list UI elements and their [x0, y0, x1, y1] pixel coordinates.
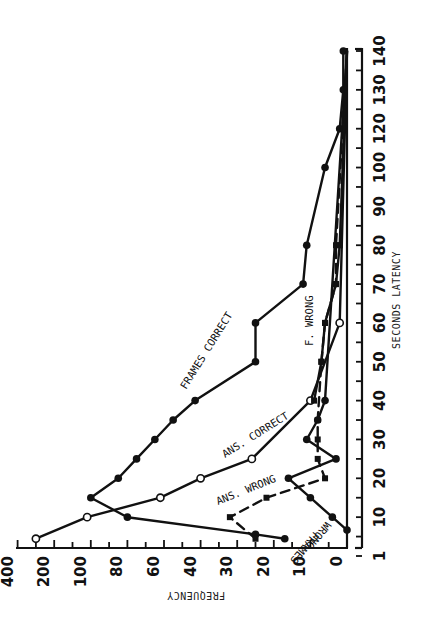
- frequency-tick-label: 80: [108, 556, 126, 577]
- seconds-tick-label: 90: [371, 196, 389, 217]
- frequency-tick-label: 0: [328, 556, 346, 566]
- data-point: [285, 475, 293, 483]
- data-point: [336, 319, 343, 326]
- frequency-tick-label: 60: [145, 556, 163, 577]
- data-point: [263, 495, 269, 501]
- seconds-tick-label: 60: [371, 312, 389, 333]
- data-point: [318, 359, 324, 365]
- data-point: [332, 455, 340, 463]
- data-point: [197, 475, 204, 482]
- data-point: [191, 397, 199, 405]
- seconds-tick-label: 10: [371, 507, 389, 528]
- data-point: [114, 475, 122, 483]
- data-point: [281, 535, 289, 543]
- data-point: [252, 358, 260, 366]
- data-point: [311, 398, 317, 404]
- frequency-ticks: [18, 540, 347, 548]
- data-point: [124, 513, 132, 521]
- data-point: [322, 320, 328, 326]
- seconds-tick-label: 130: [371, 74, 389, 105]
- frequency-tick-label: 40: [182, 556, 200, 577]
- seconds-axis-label: SECONDS LATENCY: [391, 251, 402, 349]
- data-point: [315, 436, 321, 442]
- seconds-tick-label: 120: [371, 113, 389, 144]
- data-point: [299, 280, 307, 288]
- data-point: [329, 513, 337, 521]
- data-point: [157, 494, 164, 501]
- data-point: [248, 455, 255, 462]
- label-ans-wrong: ANS. WRONG: [214, 472, 277, 507]
- data-point: [333, 281, 339, 287]
- data-point: [343, 526, 351, 534]
- data-point: [315, 456, 321, 462]
- data-point: [227, 514, 233, 520]
- seconds-tick-label: 50: [371, 351, 389, 372]
- latency-frequency-chart: 0102030406080100200400 11020304050607080…: [0, 0, 428, 628]
- ans-correct-line: [36, 51, 347, 539]
- seconds-tick-label: 1: [371, 551, 389, 561]
- data-point: [321, 164, 329, 172]
- seconds-tick-label: 70: [371, 274, 389, 295]
- data-point: [337, 242, 343, 248]
- seconds-tick-label: 140: [371, 35, 389, 66]
- frequency-tick-label: 30: [218, 556, 236, 577]
- frequency-tick-label: 20: [255, 556, 273, 577]
- data-point: [151, 436, 159, 444]
- frames-correct-line: [91, 51, 343, 539]
- data-point: [322, 475, 328, 481]
- frequency-tick-label: 400: [0, 556, 17, 587]
- frequency-tick-label: 100: [72, 556, 90, 587]
- series-frames-correct: [87, 47, 347, 542]
- data-point: [303, 241, 311, 249]
- seconds-tick-labels: 1102030405060708090100120130140: [371, 35, 389, 561]
- data-point: [314, 416, 322, 424]
- label-ans-correct: ANS. CORRECT: [220, 409, 291, 460]
- data-point: [253, 536, 259, 542]
- data-point: [321, 397, 329, 405]
- data-point: [87, 494, 95, 502]
- data-point: [252, 319, 260, 327]
- seconds-tick-label: 80: [371, 235, 389, 256]
- series-ans-correct: [32, 51, 347, 542]
- label-frames-correct: FRAMES CORRECT: [178, 309, 235, 391]
- seconds-tick-label: 100: [371, 152, 389, 183]
- frequency-tick-label: 200: [35, 556, 53, 587]
- seconds-tick-label: 40: [371, 390, 389, 411]
- data-point: [133, 455, 141, 463]
- data-point: [303, 436, 311, 444]
- data-point: [307, 494, 315, 502]
- data-point: [84, 514, 91, 521]
- frequency-axis-label: FREQUENCY: [167, 590, 226, 601]
- data-point: [169, 416, 177, 424]
- data-series: [32, 47, 351, 542]
- seconds-tick-label: 20: [371, 468, 389, 489]
- data-point: [32, 535, 39, 542]
- label-f-wrong: F. WRONG: [303, 295, 315, 346]
- seconds-tick-label: 30: [371, 429, 389, 450]
